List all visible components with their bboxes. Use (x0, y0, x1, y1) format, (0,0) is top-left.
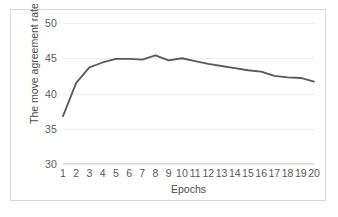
x-tick-label: 6 (126, 167, 132, 179)
x-tick-label: 13 (216, 167, 228, 179)
x-tick-label: 16 (255, 167, 267, 179)
x-tick-label: 15 (242, 167, 254, 179)
y-tick-label: 45 (45, 52, 57, 64)
y-tick-label: 40 (45, 88, 57, 100)
x-tick-label: 17 (269, 167, 281, 179)
x-tick-label: 1 (60, 167, 66, 179)
plot-area (63, 23, 314, 164)
x-tick-label: 5 (113, 167, 119, 179)
x-tick-label: 10 (176, 167, 188, 179)
x-tick-label: 19 (295, 167, 307, 179)
x-tick-label: 12 (202, 167, 214, 179)
y-tick-label: 50 (45, 17, 57, 29)
x-axis-tick-labels: 1234567891011121314151617181920 (63, 167, 314, 181)
x-tick-label: 7 (139, 167, 145, 179)
x-tick-label: 4 (100, 167, 106, 179)
x-tick-label: 14 (229, 167, 241, 179)
x-tick-label: 3 (86, 167, 92, 179)
x-axis-title: Epochs (63, 183, 314, 195)
y-tick-label: 35 (45, 123, 57, 135)
series-line-move-agreement-rate (63, 23, 314, 164)
x-tick-label: 18 (282, 167, 294, 179)
x-tick-label: 8 (153, 167, 159, 179)
y-axis-tick-labels: 3035404550 (29, 23, 57, 164)
x-tick-label: 20 (308, 167, 320, 179)
chart-figure: The move agreement rate (%) 3035404550 1… (10, 9, 326, 201)
x-tick-label: 9 (166, 167, 172, 179)
x-tick-label: 11 (190, 167, 201, 179)
x-tick-label: 2 (73, 167, 79, 179)
gridline-y-30 (63, 164, 314, 165)
y-tick-label: 30 (45, 158, 57, 170)
